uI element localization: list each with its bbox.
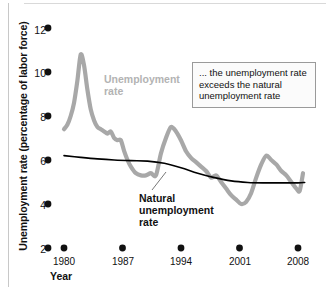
unemployment-rate-line (64, 54, 303, 204)
chart-plot-svg (0, 0, 326, 290)
y-tick-dots (45, 25, 52, 252)
chart-figure: Unemployment rate (percentage of labor f… (0, 0, 326, 290)
x-tick-dots (61, 245, 302, 252)
